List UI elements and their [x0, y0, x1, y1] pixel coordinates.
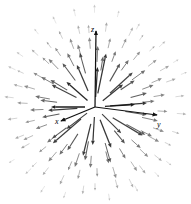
field-arrow [47, 42, 52, 48]
field-arrow [155, 155, 162, 161]
field-arrow [77, 25, 80, 33]
field-arrow [159, 41, 165, 47]
x-axis-label: x [54, 117, 59, 126]
field-arrow [126, 124, 145, 134]
field-arrow [15, 135, 24, 139]
field-arrow [66, 113, 87, 129]
field-arrow [33, 73, 42, 78]
field-arrow [173, 60, 178, 63]
field-arrow [48, 152, 56, 162]
field-arrow [177, 112, 187, 115]
field-arrow [30, 108, 43, 112]
field-arrow [36, 125, 47, 129]
field-arrow [48, 108, 77, 112]
field-arrow [77, 170, 80, 179]
field-arrow [17, 101, 27, 104]
field-arrow [175, 95, 184, 98]
field-arrow [9, 159, 15, 163]
field-arrow [70, 39, 74, 49]
field-arrow [74, 153, 79, 167]
field-arrow [117, 10, 119, 17]
field-arrow [68, 161, 72, 170]
field-arrow [165, 142, 171, 145]
field-arrow [87, 25, 89, 33]
field-arrow [25, 120, 34, 123]
field-arrow [4, 96, 13, 99]
field-arrow [43, 168, 49, 176]
field-arrow [122, 39, 126, 49]
field-arrow [96, 168, 99, 176]
field-arrow [131, 92, 147, 97]
y-axis [95, 107, 157, 115]
field-arrow [139, 165, 145, 173]
field-arrow [115, 180, 118, 189]
vector-field-plot: z x y [0, 0, 191, 204]
field-arrow [21, 144, 30, 149]
field-arrow [94, 183, 96, 190]
field-arrow [110, 63, 120, 81]
field-arrow [133, 51, 140, 59]
field-arrow [135, 186, 138, 192]
field-arrow [24, 85, 35, 89]
field-arrow [17, 70, 23, 73]
field-arrow [25, 169, 31, 175]
field-arrow [108, 38, 111, 48]
field-arrow [142, 117, 158, 121]
field-arrow [166, 161, 171, 165]
field-arrow [131, 162, 137, 171]
y-axis-label: y [156, 120, 161, 129]
field-arrow [55, 48, 60, 56]
field-arrow [136, 23, 139, 29]
field-arrow [158, 110, 168, 113]
field-arrow [32, 50, 39, 56]
field-arrow [93, 4, 95, 12]
field-arrow [152, 78, 162, 82]
field-arrow [160, 66, 169, 71]
field-arrow [105, 103, 135, 107]
vector-field-figure: z x y [0, 0, 191, 204]
field-arrow [82, 186, 85, 194]
field-arrow [77, 65, 88, 91]
field-arrow [91, 117, 95, 145]
field-arrow [63, 192, 65, 198]
field-arrow [113, 118, 143, 136]
field-arrow [77, 45, 81, 58]
z-axis-label: z [90, 25, 95, 34]
field-arrow [155, 172, 159, 177]
field-arrow [34, 29, 38, 34]
field-arrow [59, 144, 67, 155]
field-arrow [149, 46, 154, 51]
field-arrow [113, 167, 117, 178]
field-arrow [112, 51, 116, 62]
field-arrow [14, 84, 23, 87]
field-arrow [53, 16, 56, 23]
field-arrow [79, 53, 85, 73]
field-arrow [139, 35, 143, 41]
field-arrow [105, 22, 108, 32]
field-arrow [42, 58, 49, 64]
field-arrow [8, 118, 18, 121]
field-arrow [23, 135, 33, 139]
field-arrow [35, 95, 50, 99]
field-arrow [60, 175, 64, 184]
field-arrow [66, 82, 87, 100]
field-arrow [148, 60, 156, 66]
field-arrow [166, 79, 175, 83]
field-arrow [39, 147, 46, 153]
field-arrow [8, 66, 15, 69]
field-arrow [131, 140, 140, 148]
field-arrow [40, 99, 57, 103]
field-arrow [172, 131, 179, 134]
field-arrow [59, 31, 63, 39]
field-arrow [129, 179, 133, 188]
field-arrow [120, 148, 126, 158]
field-arrow [41, 186, 45, 193]
field-arrow [181, 72, 187, 74]
field-arrow [89, 156, 93, 168]
field-arrow [132, 70, 145, 80]
field-arrow [142, 85, 153, 89]
field-arrow [121, 60, 128, 70]
field-arrow [51, 105, 85, 109]
field-arrow [32, 163, 37, 168]
field-arrow [129, 27, 133, 35]
